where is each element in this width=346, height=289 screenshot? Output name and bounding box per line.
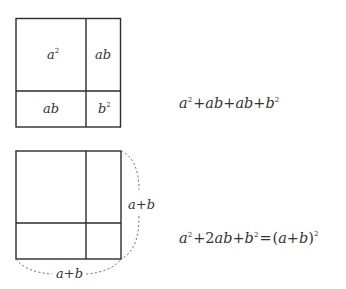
binomial-square-identity: a2+2ab+b2=(a+b)2 xyxy=(179,230,318,246)
cell-label-a-squared: a2 xyxy=(47,47,59,62)
expanded-sum-formula: a2+ab+ab+b2 xyxy=(179,95,279,111)
cell-label-ab-top-right: ab xyxy=(95,47,111,62)
right-dimension-brace-lower xyxy=(121,216,139,259)
cell-label-b-squared: b2 xyxy=(98,101,111,116)
top-square: a2 ab ab b2 xyxy=(16,19,121,128)
bottom-square: a+b a+b xyxy=(16,151,155,281)
right-side-label-a-plus-b: a+b xyxy=(128,197,155,212)
right-dimension-brace-upper xyxy=(121,151,139,190)
cell-label-ab-bottom-left: ab xyxy=(43,101,59,116)
bottom-dimension-brace-right xyxy=(86,259,121,274)
bottom-square-outline xyxy=(16,151,121,259)
diagram-canvas: a2 ab ab b2 a2+ab+ab+b2 a+b a+b a2+2ab+b… xyxy=(0,0,346,289)
bottom-dimension-brace-left xyxy=(16,259,52,274)
bottom-side-label-a-plus-b: a+b xyxy=(56,266,83,281)
